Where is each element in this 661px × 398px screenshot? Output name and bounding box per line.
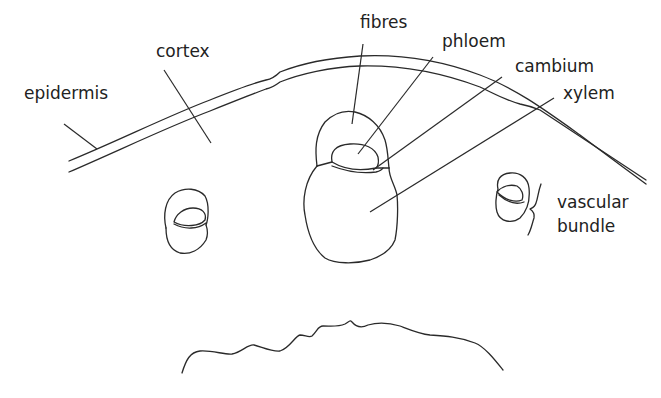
vascular-bundle-bracket [528,184,541,235]
label-fibres: fibres [360,13,407,33]
right-vascular-bundle [496,173,529,221]
cortex-leader [164,70,211,143]
stem-section-diagram: epidermis cortex fibres phloem cambium x… [0,0,661,398]
label-cambium: cambium [515,57,594,77]
phloem-leader [358,57,433,154]
cambium-leader [373,77,502,170]
label-cortex: cortex [156,42,210,62]
label-vascular-bundle-line1: vascular [557,193,629,213]
xylem-body [304,166,398,263]
label-epidermis: epidermis [24,84,108,104]
central-vascular-bundle [304,111,398,262]
phloem-region [332,144,379,170]
pith-boundary [182,321,503,373]
left-vascular-bundle [165,189,208,253]
xylem-leader [370,98,554,212]
label-phloem: phloem [442,32,506,52]
label-vascular-bundle-line2: bundle [557,217,615,237]
label-xylem: xylem [563,84,615,104]
epidermis-leader [64,124,97,149]
leader-lines [64,44,554,212]
